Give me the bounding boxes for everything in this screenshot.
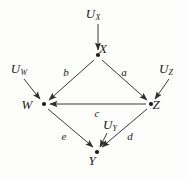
exogenous-label-U_Y: UY [103,118,117,133]
edge-W-to-Y [48,109,93,147]
exogenous-label-U_Z: UZ [159,62,173,77]
node-label-W: W [22,98,33,111]
edge-label-c: c [95,108,100,119]
node-dot-W [42,102,46,106]
edge-label-e: e [62,131,67,142]
edge-label-b: b [63,67,69,78]
causal-diagram: UXUWUZUYbacedXWZY [0,0,187,179]
node-label-Y: Y [88,154,95,167]
exogenous-label-U_W: UW [11,62,27,77]
exogenous-arrow-U_Y [100,133,107,147]
edge-label-a: a [121,67,127,78]
node-label-X: X [99,42,107,55]
edge-label-d: d [127,131,133,142]
node-label-Z: Z [152,98,159,111]
exogenous-label-U_X: UX [86,7,101,22]
edge-X-to-W [49,60,94,100]
exogenous-arrows [24,24,169,147]
